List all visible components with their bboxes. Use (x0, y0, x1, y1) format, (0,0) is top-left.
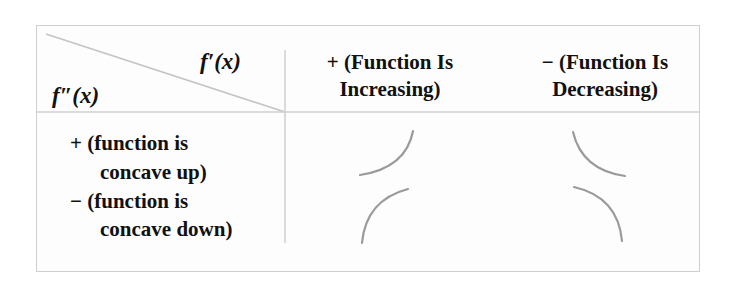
corner-column-variable: f′(x) (200, 48, 241, 75)
column-header-decreasing-line2: Decreasing) (505, 76, 705, 103)
column-header-decreasing: − (Function Is Decreasing) (505, 49, 705, 103)
row-header-concave-down-line2: concave down) (100, 216, 232, 243)
column-header-increasing: + (Function Is Increasing) (290, 49, 490, 103)
curve-increasing-concave-down (362, 189, 408, 243)
corner-row-variable: f″(x) (52, 82, 99, 109)
column-header-decreasing-line1: − (Function Is (505, 49, 705, 76)
row-header-concave-up-line2: concave up) (100, 159, 207, 186)
curve-decreasing-concave-down (574, 187, 622, 241)
column-header-increasing-line1: + (Function Is (290, 49, 490, 76)
column-header-increasing-line2: Increasing) (290, 76, 490, 103)
row-header-concave-up-line1: + (function is (70, 130, 188, 157)
curve-decreasing-concave-up (573, 132, 625, 176)
curve-increasing-concave-up (360, 131, 413, 175)
row-header-concave-down-line1: − (function is (70, 188, 188, 215)
concavity-sign-table: f′(x) f″(x) + (Function Is Increasing) −… (0, 0, 739, 284)
